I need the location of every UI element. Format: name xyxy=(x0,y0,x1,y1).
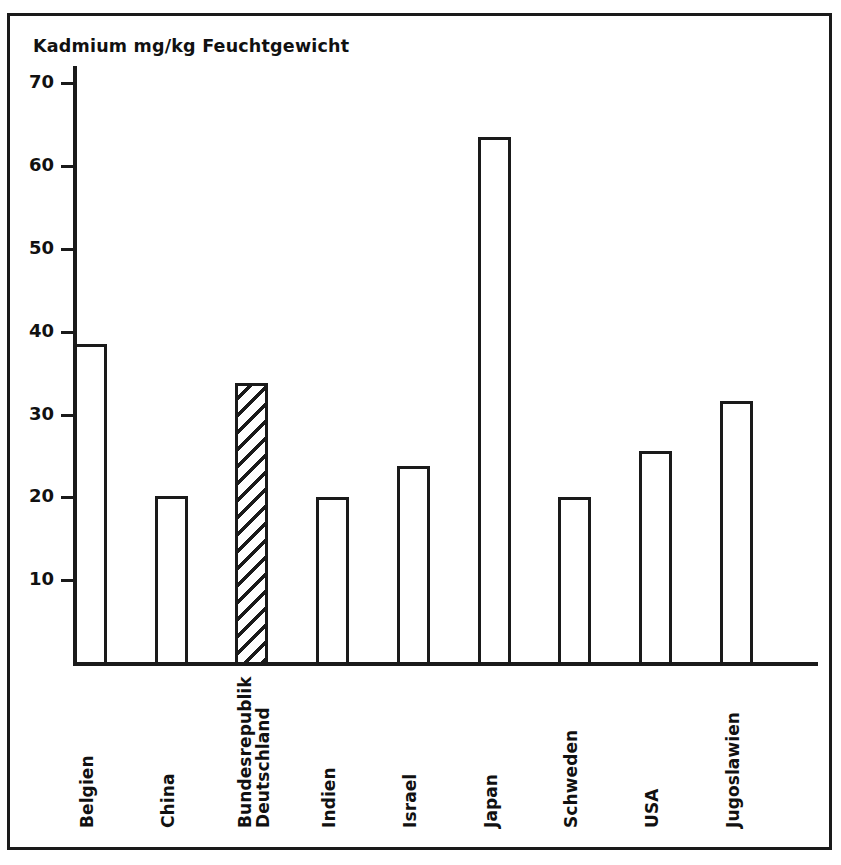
y-axis-tick xyxy=(61,165,74,168)
category-label-schweden: Schweden xyxy=(562,730,580,828)
category-label-usa: USA xyxy=(643,788,661,828)
y-axis-tick-label: 10 xyxy=(8,570,54,588)
y-axis-tick-label: 60 xyxy=(8,156,54,174)
category-label-indien: Indien xyxy=(320,767,338,828)
plot-area: 70605040302010 BelgienChinaBundesrepubli… xyxy=(0,0,841,865)
bar-jugoslawien xyxy=(720,401,753,665)
category-label-jugoslawien: Jugoslawien xyxy=(724,712,742,828)
y-axis-tick xyxy=(61,248,74,251)
y-axis-tick xyxy=(61,331,74,334)
y-axis-tick-label: 70 xyxy=(8,73,54,91)
category-label-japan: Japan xyxy=(482,774,500,828)
bar-indien xyxy=(316,497,349,665)
category-label-bundesrepublik-deutschland: BundesrepublikDeutschland xyxy=(236,676,272,828)
bar-belgien xyxy=(74,344,107,665)
y-axis-tick xyxy=(61,496,74,499)
bar-bundesrepublik-deutschland xyxy=(235,383,268,665)
y-axis-tick-label: 20 xyxy=(8,487,54,505)
category-label-israel: Israel xyxy=(401,774,419,828)
bar-japan xyxy=(478,137,511,665)
bar-china xyxy=(155,496,188,665)
bar-israel xyxy=(397,466,430,665)
category-label-line2: Deutschland xyxy=(254,676,272,828)
category-label-belgien: Belgien xyxy=(78,755,96,828)
bar-schweden xyxy=(558,497,591,665)
bar-usa xyxy=(639,451,672,665)
category-label-china: China xyxy=(159,774,177,828)
y-axis-tick xyxy=(61,579,74,582)
chart-figure: Kadmium mg/kg Feuchtgewicht 706050403020… xyxy=(0,0,841,865)
y-axis-tick-label: 30 xyxy=(8,405,54,423)
y-axis-tick-label: 40 xyxy=(8,322,54,340)
y-axis-tick xyxy=(61,414,74,417)
y-axis-tick-label: 50 xyxy=(8,239,54,257)
y-axis-tick xyxy=(61,82,74,85)
